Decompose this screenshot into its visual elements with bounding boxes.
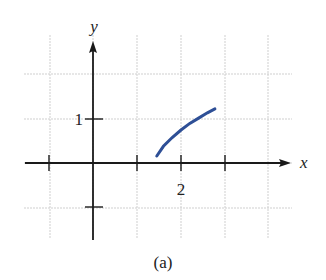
grid-lines <box>24 35 292 238</box>
y-axis-label: y <box>88 17 98 36</box>
tick-labels: 21 <box>75 110 186 199</box>
y-tick-label: 1 <box>75 110 84 129</box>
x-axis-label: x <box>299 153 308 172</box>
function-graph: x y 21 <box>0 0 326 280</box>
function-curve <box>157 109 215 156</box>
axes <box>25 41 291 240</box>
x-tick-label: 2 <box>177 180 186 199</box>
figure-caption: (a) <box>0 253 326 273</box>
